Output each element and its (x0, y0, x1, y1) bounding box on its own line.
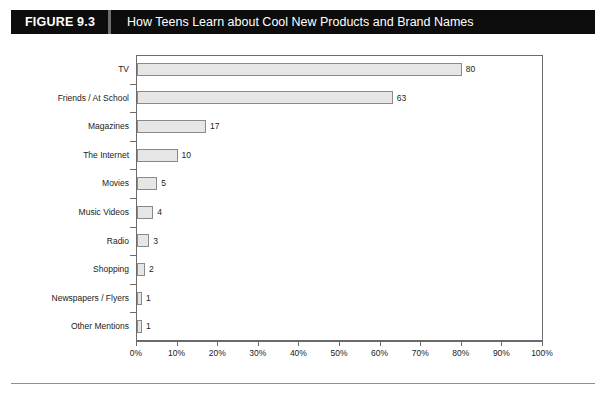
x-axis-tick-label: 20% (209, 349, 226, 358)
bar (137, 292, 142, 305)
x-axis-tick-label: 30% (249, 349, 266, 358)
x-axis-tick-label: 90% (493, 349, 510, 358)
bottom-rule (11, 383, 595, 384)
bar-value-label: 63 (397, 94, 406, 103)
x-axis-tick (298, 341, 299, 346)
category-label: Friends / At School (0, 94, 129, 103)
bar-row: Magazines17 (0, 112, 607, 141)
category-label: The Internet (0, 151, 129, 160)
bar-value-label: 17 (210, 122, 219, 131)
bar-row: Shopping2 (0, 255, 607, 284)
category-label: Magazines (0, 122, 129, 131)
y-axis-tick (130, 255, 136, 256)
y-axis-tick (130, 312, 136, 313)
x-axis-tick-label: 60% (371, 349, 388, 358)
bar-row: Radio3 (0, 227, 607, 256)
chart-rows: TV80Friends / At School63Magazines17The … (0, 55, 607, 341)
bar (137, 206, 153, 219)
category-label: Radio (0, 237, 129, 246)
bar-value-label: 10 (182, 151, 191, 160)
category-label: Shopping (0, 265, 129, 274)
category-label: TV (0, 65, 129, 74)
bar-row: Friends / At School63 (0, 84, 607, 113)
bar-row: Newspapers / Flyers1 (0, 284, 607, 313)
category-label: Music Videos (0, 208, 129, 217)
figure-header: FIGURE 9.3 How Teens Learn about Cool Ne… (11, 10, 595, 34)
bar (137, 320, 142, 333)
bar (137, 91, 393, 104)
x-axis-tick (339, 341, 340, 346)
x-axis-tick-label: 10% (168, 349, 185, 358)
bar (137, 177, 157, 190)
category-label: Newspapers / Flyers (0, 294, 129, 303)
x-axis-tick (380, 341, 381, 346)
x-axis-tick-label: 40% (290, 349, 307, 358)
x-axis-tick-label: 70% (412, 349, 429, 358)
figure-number-label: FIGURE 9.3 (11, 16, 108, 29)
category-label: Movies (0, 179, 129, 188)
bar-value-label: 80 (466, 65, 475, 74)
y-axis-tick (130, 141, 136, 142)
x-axis-tick (461, 341, 462, 346)
bar-value-label: 1 (146, 322, 151, 331)
x-axis-tick (258, 341, 259, 346)
bar (137, 263, 145, 276)
bar-chart: TV80Friends / At School63Magazines17The … (0, 34, 607, 383)
bar-row: Other Mentions1 (0, 312, 607, 341)
bar (137, 234, 149, 247)
bar-row: The Internet10 (0, 141, 607, 170)
bar-row: Music Videos4 (0, 198, 607, 227)
bar-value-label: 2 (149, 265, 154, 274)
bar (137, 120, 206, 133)
bar (137, 63, 462, 76)
x-axis-tick-label: 0% (130, 349, 142, 358)
bar-value-label: 1 (146, 294, 151, 303)
y-axis-tick (130, 169, 136, 170)
x-axis-tick (217, 341, 218, 346)
x-axis-tick (177, 341, 178, 346)
bar-value-label: 5 (161, 179, 166, 188)
bar (137, 149, 178, 162)
x-axis-tick-label: 50% (330, 349, 347, 358)
bar-value-label: 3 (153, 237, 158, 246)
y-axis-tick (130, 84, 136, 85)
figure-title-label: How Teens Learn about Cool New Products … (111, 16, 474, 29)
y-axis-tick (130, 227, 136, 228)
y-axis-tick (130, 198, 136, 199)
y-axis-tick (130, 112, 136, 113)
x-axis-tick (420, 341, 421, 346)
x-axis-tick-label: 80% (452, 349, 469, 358)
x-axis-tick (501, 341, 502, 346)
category-label: Other Mentions (0, 322, 129, 331)
x-axis-tick-label: 100% (531, 349, 553, 358)
bar-row: TV80 (0, 55, 607, 84)
bar-value-label: 4 (157, 208, 162, 217)
bar-row: Movies5 (0, 169, 607, 198)
y-axis-tick (130, 284, 136, 285)
x-axis-tick (542, 341, 543, 346)
x-axis-tick (136, 341, 137, 346)
